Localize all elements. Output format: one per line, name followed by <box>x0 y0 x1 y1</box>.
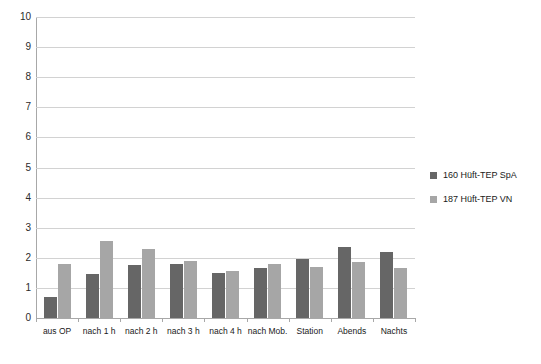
y-tick-label: 5 <box>1 163 31 173</box>
y-tick-label: 0 <box>1 313 31 323</box>
bar <box>338 247 351 318</box>
bar <box>100 241 113 318</box>
bar <box>268 264 281 318</box>
x-tick-label: Nachts <box>373 326 415 336</box>
bar-group <box>86 17 113 318</box>
legend-label: 187 Hüft-TEP VN <box>443 194 512 204</box>
legend-swatch-icon <box>430 172 437 179</box>
bar <box>86 274 99 318</box>
x-tick-label: aus OP <box>36 326 78 336</box>
bar <box>44 297 57 318</box>
bar-chart-figure: 012345678910 aus OPnach 1 hnach 2 hnach … <box>0 0 541 364</box>
x-tick-mark <box>162 318 163 322</box>
bar <box>310 267 323 318</box>
bar-group <box>296 17 323 318</box>
bar <box>128 265 141 318</box>
bar <box>226 271 239 318</box>
legend-entry: 187 Hüft-TEP VN <box>430 194 538 204</box>
y-tick-label: 7 <box>1 102 31 112</box>
bar <box>254 268 267 318</box>
x-tick-label: nach 3 h <box>162 326 204 336</box>
x-tick-mark <box>289 318 290 322</box>
chart-legend: 160 Hüft-TEP SpA187 Hüft-TEP VN <box>430 170 538 218</box>
bar <box>58 264 71 318</box>
x-tick-label: nach Mob. <box>247 326 289 336</box>
legend-label: 160 Hüft-TEP SpA <box>443 170 517 180</box>
y-tick-label: 6 <box>1 132 31 142</box>
bar <box>380 252 393 318</box>
x-tick-mark <box>36 318 37 322</box>
bar <box>212 273 225 318</box>
bar <box>142 249 155 318</box>
x-tick-mark <box>415 318 416 322</box>
x-tick-label: nach 4 h <box>204 326 246 336</box>
bar-group <box>212 17 239 318</box>
bar <box>296 259 309 318</box>
y-tick-label: 2 <box>1 253 31 263</box>
x-tick-mark <box>247 318 248 322</box>
y-tick-label: 4 <box>1 193 31 203</box>
x-tick-mark <box>78 318 79 322</box>
y-tick-label: 9 <box>1 42 31 52</box>
bar <box>394 268 407 318</box>
y-tick-label: 8 <box>1 72 31 82</box>
x-tick-mark <box>120 318 121 322</box>
x-tick-mark <box>331 318 332 322</box>
x-tick-label: Station <box>289 326 331 336</box>
y-tick-label: 1 <box>1 283 31 293</box>
legend-swatch-icon <box>430 196 437 203</box>
y-tick-label: 3 <box>1 223 31 233</box>
bar-group <box>254 17 281 318</box>
x-tick-mark <box>204 318 205 322</box>
plot-area <box>36 17 415 318</box>
bar-group <box>170 17 197 318</box>
bar-group <box>128 17 155 318</box>
x-tick-mark <box>373 318 374 322</box>
bar-group <box>44 17 71 318</box>
legend-entry: 160 Hüft-TEP SpA <box>430 170 538 180</box>
bar-group <box>338 17 365 318</box>
gridline <box>36 318 415 319</box>
y-axis-tick-labels: 012345678910 <box>0 0 31 364</box>
bar <box>184 261 197 318</box>
x-tick-label: nach 2 h <box>120 326 162 336</box>
y-tick-label: 10 <box>1 12 31 22</box>
bar <box>352 262 365 318</box>
x-tick-label: Abends <box>331 326 373 336</box>
x-tick-label: nach 1 h <box>78 326 120 336</box>
bar-group <box>380 17 407 318</box>
bar <box>170 264 183 318</box>
